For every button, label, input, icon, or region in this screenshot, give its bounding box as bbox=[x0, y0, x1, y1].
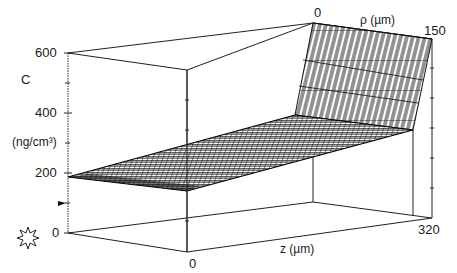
z-axis-unit: (ng/cm³) bbox=[12, 136, 57, 148]
z-tick-200: 200 bbox=[35, 166, 57, 179]
rho-tick-150: 150 bbox=[424, 24, 446, 37]
x-axis-label: z (µm) bbox=[280, 243, 314, 255]
z-tick-600: 600 bbox=[35, 46, 57, 59]
z-tick-400: 400 bbox=[35, 106, 57, 119]
star-icon bbox=[16, 226, 40, 250]
z-tick-0: 0 bbox=[52, 226, 59, 239]
x-tick-0: 0 bbox=[189, 257, 196, 270]
rho-axis-label: ρ (µm) bbox=[360, 14, 395, 26]
rho-tick-0: 0 bbox=[314, 6, 321, 19]
x-tick-320: 320 bbox=[418, 223, 440, 236]
box-base bbox=[68, 202, 432, 252]
z-axis-label: C bbox=[21, 73, 30, 86]
surface-wall bbox=[295, 23, 432, 130]
surface-plot bbox=[0, 0, 457, 273]
y-marker bbox=[58, 201, 66, 206]
